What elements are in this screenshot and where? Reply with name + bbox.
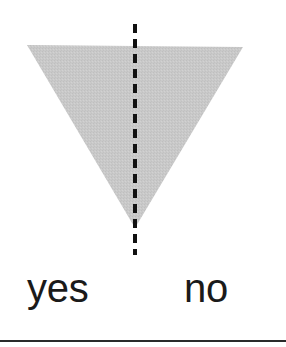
answer-label-yes: yes — [27, 268, 89, 308]
figure-canvas: yes no — [0, 0, 286, 347]
answer-label-no: no — [184, 268, 228, 308]
